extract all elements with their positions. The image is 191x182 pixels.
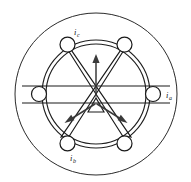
label-phase-c-subscript: c	[77, 32, 80, 38]
label-phase-a-subscript: a	[169, 95, 172, 101]
label-phase-b: ib	[70, 153, 76, 164]
slot-circle-c-negative	[117, 37, 132, 52]
slot-circle-a-positive	[146, 87, 161, 102]
label-phase-b-subscript: b	[73, 158, 76, 164]
figure-root: ic ia ib	[0, 0, 191, 182]
hub-triangle-path	[88, 98, 104, 112]
slot-circle-b-positive	[117, 136, 132, 151]
slot-circle-c-positive	[60, 136, 75, 151]
slot-circle-b-negative	[60, 37, 75, 52]
mmf-arrow-c-head	[118, 115, 128, 123]
center-hub-triangle	[88, 98, 104, 112]
mmf-arrow-b-head	[65, 115, 75, 123]
slot-circle-a-negative	[32, 87, 47, 102]
mmf-arrow-a-head	[92, 54, 99, 63]
label-phase-a: ia	[166, 90, 172, 101]
machine-cross-section-diagram: ic ia ib	[0, 0, 191, 182]
label-phase-c: ic	[74, 27, 80, 38]
